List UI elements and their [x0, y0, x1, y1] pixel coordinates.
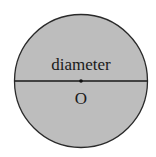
center-label: O — [75, 89, 87, 108]
diameter-label: diameter — [51, 55, 111, 74]
center-point — [79, 79, 83, 83]
circle-diagram: diameter O — [0, 0, 156, 157]
